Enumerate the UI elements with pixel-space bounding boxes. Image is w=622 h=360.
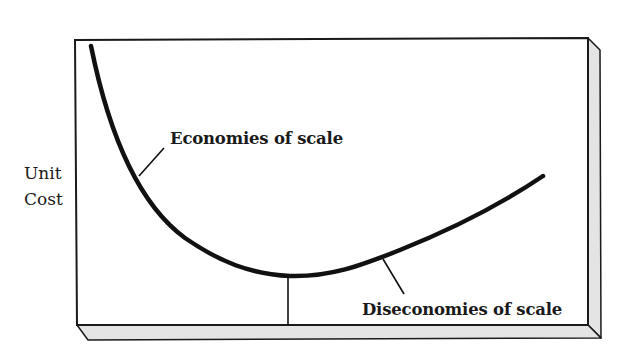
diseconomies-of-scale-label: Diseconomies of scale [362, 302, 562, 319]
y-axis-label-line1: Unit [24, 160, 63, 186]
frame-right-face [588, 38, 601, 338]
y-axis-label-line2: Cost [24, 186, 63, 212]
cost-curve-diagram: Unit Cost Economies of scale Diseconomie… [0, 0, 622, 360]
frame-bottom-face [77, 325, 601, 340]
economies-of-scale-label: Economies of scale [170, 131, 343, 148]
chart-frame [75, 38, 588, 325]
y-axis-label: Unit Cost [24, 160, 63, 212]
